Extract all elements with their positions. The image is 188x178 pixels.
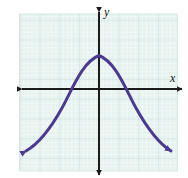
x-axis-label: x: [170, 72, 175, 84]
y-axis-label: y: [104, 6, 109, 18]
coordinate-plane: [0, 0, 188, 178]
graph-figure: y x: [0, 0, 188, 178]
